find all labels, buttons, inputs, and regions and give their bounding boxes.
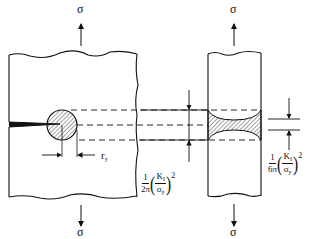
stress-label-bottom-left: σ bbox=[77, 226, 83, 238]
diagram-canvas bbox=[0, 0, 322, 239]
stress-label-top-right: σ bbox=[230, 3, 236, 15]
formula-plane-strain: 16π ( KIσy ) 2 bbox=[268, 152, 302, 175]
formula-plane-stress: 12π ( KIσy ) 2 bbox=[141, 172, 175, 195]
stress-label-top-left: σ bbox=[77, 3, 83, 15]
plastic-zone-radius-label: ry bbox=[101, 150, 108, 162]
stress-label-bottom-right: σ bbox=[230, 226, 236, 238]
plastic-zone-thickness bbox=[208, 110, 261, 140]
